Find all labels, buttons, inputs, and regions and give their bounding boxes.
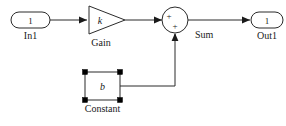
signal-line-sum-to-out1[interactable] [188, 17, 250, 24]
block-gain[interactable]: k Gain [89, 6, 125, 48]
arrowhead-sum-input-left [154, 17, 162, 24]
gain-triangle-shape [89, 6, 125, 34]
block-inport-in1[interactable]: 1 In1 [11, 12, 50, 41]
sum-sign-left: + [166, 11, 171, 21]
sum-sign-bottom: + [172, 21, 177, 31]
block-diagram-canvas: 1 In1 k Gain + + Sum 1 Out1 b Constant [0, 0, 286, 126]
block-sum[interactable]: + + Sum [162, 7, 214, 40]
constant-label: Constant [85, 103, 121, 114]
gain-label: Gain [91, 37, 110, 48]
inport-port-number: 1 [28, 16, 33, 26]
selection-handle-top-right[interactable] [118, 70, 123, 75]
selection-handle-top-left[interactable] [83, 70, 88, 75]
gain-parameter: k [98, 15, 103, 26]
signal-line-in1-to-gain[interactable] [50, 17, 87, 24]
block-constant[interactable]: b Constant [83, 70, 123, 115]
outport-label: Out1 [257, 30, 277, 41]
constant-parameter: b [100, 81, 105, 92]
signal-line-gain-to-sum[interactable] [125, 17, 162, 24]
sum-label: Sum [195, 29, 214, 40]
outport-port-number: 1 [265, 16, 270, 26]
block-outport-out1[interactable]: 1 Out1 [251, 12, 283, 41]
arrowhead-sum-input-bottom [172, 33, 179, 41]
signal-line-constant-to-sum[interactable] [120, 33, 178, 86]
arrowhead-gain-input [79, 17, 87, 24]
selection-handle-bottom-left[interactable] [83, 98, 88, 103]
arrowhead-out1-input [242, 17, 250, 24]
selection-handle-bottom-right[interactable] [118, 98, 123, 103]
inport-label: In1 [24, 30, 37, 41]
diagram-svg: 1 In1 k Gain + + Sum 1 Out1 b Constant [0, 0, 286, 126]
